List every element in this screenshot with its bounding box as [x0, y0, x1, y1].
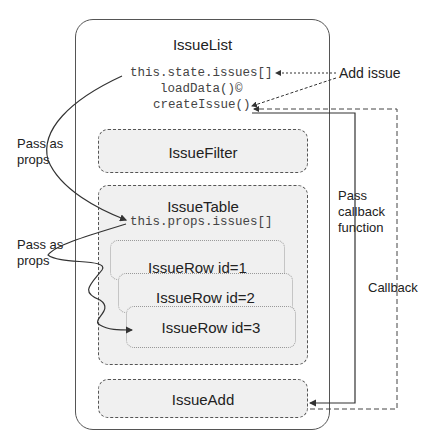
connector-lines [0, 0, 433, 448]
